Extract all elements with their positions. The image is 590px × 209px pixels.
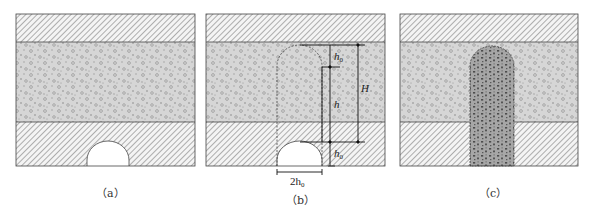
label-2h0: 2h0 [290, 175, 305, 189]
figure-canvas: h0 h H h0 2h0 [0, 0, 590, 209]
conglomerate-stratum [16, 42, 195, 122]
panel-c [400, 14, 578, 166]
upper-hatched-stratum [206, 14, 385, 42]
caption-a: （a） [96, 184, 125, 200]
panel-b: h0 h H h0 2h0 [206, 14, 385, 189]
panel-a [16, 14, 195, 166]
caption-b: （b） [286, 191, 315, 207]
label-h: h [334, 98, 340, 110]
caption-c: （c） [479, 184, 507, 200]
label-H: H [360, 82, 370, 94]
caved-rock-column [470, 46, 514, 166]
upper-hatched-stratum [400, 14, 578, 42]
upper-hatched-stratum [16, 14, 195, 42]
